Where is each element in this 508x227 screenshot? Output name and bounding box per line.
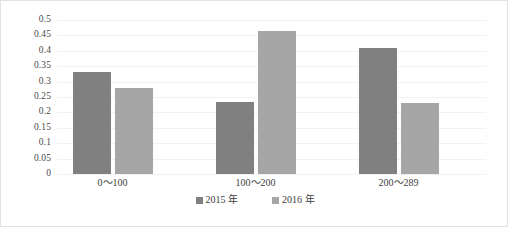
y-axis-tick-label: 0.35 [1, 61, 51, 71]
plot-area [57, 20, 486, 174]
x-axis-category-label: 200～289 [344, 176, 454, 190]
legend-label: 2015 年 [206, 195, 239, 205]
legend-item-2015[interactable]: 2015 年 [196, 195, 239, 205]
y-axis-tick-label: 0.5 [1, 15, 51, 25]
y-axis-tick-label: 0.25 [1, 92, 51, 102]
legend-swatch-icon [272, 197, 279, 204]
x-axis-category-label: 100～200 [201, 176, 311, 190]
y-axis: 00.050.10.150.20.250.30.350.40.450.5 [1, 20, 51, 174]
bar-2016-2 [401, 103, 439, 174]
y-axis-tick-label: 0.4 [1, 46, 51, 56]
x-axis-category-label: 0～100 [58, 176, 168, 190]
legend-swatch-icon [196, 197, 203, 204]
gridline [57, 20, 486, 21]
y-axis-tick-label: 0.15 [1, 123, 51, 133]
legend-label: 2016 年 [282, 195, 315, 205]
chart-legend: 2015 年2016 年 [1, 195, 508, 205]
x-axis: 0～100100～200200～289 [57, 176, 486, 192]
bar-2016-1 [258, 31, 296, 174]
bar-2015-2 [359, 48, 397, 174]
y-axis-tick-label: 0.3 [1, 77, 51, 87]
y-axis-tick-label: 0.45 [1, 31, 51, 41]
bar-2016-0 [115, 88, 153, 174]
y-axis-tick-label: 0 [1, 169, 51, 179]
bar-2015-0 [73, 72, 111, 174]
bar-2015-1 [216, 102, 254, 174]
gridline [57, 174, 486, 175]
y-axis-tick-label: 0.1 [1, 138, 51, 148]
y-axis-tick-label: 0.05 [1, 154, 51, 164]
legend-item-2016[interactable]: 2016 年 [272, 195, 315, 205]
bar-chart: 00.050.10.150.20.250.30.350.40.450.5 0～1… [0, 0, 508, 227]
y-axis-tick-label: 0.2 [1, 108, 51, 118]
